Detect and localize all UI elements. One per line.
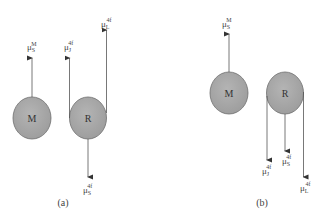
node-label-r: R bbox=[85, 113, 92, 124]
vector-label-mu-j-4f: μJ4f bbox=[64, 40, 73, 53]
caption-b: (b) bbox=[256, 197, 268, 209]
vector-label-mu-s-m: μSM bbox=[222, 17, 232, 30]
atom-m-a: M bbox=[13, 97, 51, 139]
node-label-m: M bbox=[28, 113, 37, 124]
caption-a: (a) bbox=[57, 197, 68, 209]
magnetic-moment-diagram: M μSM R μJ4f μL4f μS4f (a) M μSM bbox=[0, 0, 321, 216]
vector-label-mu-s-4f: μS4f bbox=[282, 154, 291, 167]
node-label-r: R bbox=[282, 88, 289, 99]
atom-m-b: M bbox=[210, 72, 248, 114]
vector-label-mu-l-4f: μL4f bbox=[101, 17, 112, 30]
vector-label-mu-s-m: μSM bbox=[27, 41, 37, 53]
vector-label-mu-j-4f: μJ4f bbox=[262, 164, 271, 177]
node-label-m: M bbox=[225, 88, 234, 99]
atom-r-a: R bbox=[70, 97, 107, 139]
vector-label-mu-l-4f: μL4f bbox=[300, 181, 311, 194]
vector-label-mu-s-4f: μS4f bbox=[83, 183, 92, 196]
panel-b: M μSM R μJ4f μS4f μL4f (b) bbox=[210, 17, 311, 209]
atom-r-b: R bbox=[267, 72, 304, 114]
panel-a: M μSM R μJ4f μL4f μS4f (a) bbox=[13, 17, 112, 209]
